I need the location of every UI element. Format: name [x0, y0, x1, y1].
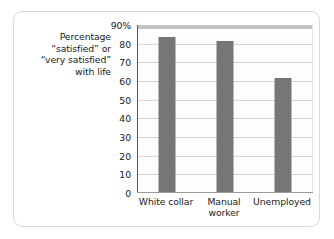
y-axis-tick-label: 10 [119, 170, 131, 179]
x-axis-tick-label: Manualworker [195, 196, 253, 218]
x-axis-tick-label: White collar [137, 196, 195, 207]
y-axis-tick-label: 80 [119, 39, 131, 48]
x-axis-tick-label: Unemployed [253, 196, 311, 207]
y-axis-tick-label: 70 [119, 58, 131, 67]
y-axis-description-line-4: with life [20, 66, 111, 78]
y-axis-tick-label: 20 [119, 151, 131, 160]
bar-slot [196, 25, 254, 192]
bar-slot [254, 25, 312, 192]
y-axis-tick-label: 40 [119, 114, 131, 123]
x-axis-line [137, 192, 313, 193]
bar[interactable] [217, 41, 234, 192]
bars-layer [138, 25, 312, 192]
x-axis-tick-label-line: Manual [195, 196, 253, 207]
y-axis-tick-labels: 0102030405060708090% [103, 25, 134, 193]
plot-box [137, 25, 313, 193]
x-axis-tick-labels: White collarManualworkerUnemployed [137, 196, 313, 222]
chart-card: Percentage “satisfied” or “very satisfie… [13, 11, 320, 227]
y-axis-description-line-2: “satisfied” or [20, 43, 111, 55]
y-axis-tick-label: 30 [119, 133, 131, 142]
chart-plot-region: 0102030405060708090% White collarManualw… [103, 25, 314, 217]
y-axis-tick-label: 50 [119, 95, 131, 104]
bar-slot [138, 25, 196, 192]
bar[interactable] [275, 78, 292, 192]
y-axis-description-line-1: Percentage [20, 31, 111, 43]
x-axis-tick-label-line: worker [195, 207, 253, 218]
y-axis-tick-label: 90% [111, 21, 131, 30]
y-axis-tick-label: 0 [125, 189, 131, 198]
x-axis-tick-label-line: Unemployed [253, 196, 311, 207]
y-axis-description-line-3: “very satisfied” [20, 54, 111, 66]
bar[interactable] [159, 37, 176, 192]
y-axis-tick-label: 60 [119, 77, 131, 86]
x-axis-tick-label-line: White collar [137, 196, 195, 207]
plot-right-edge [312, 25, 313, 193]
y-axis-description: Percentage “satisfied” or “very satisfie… [20, 31, 111, 77]
